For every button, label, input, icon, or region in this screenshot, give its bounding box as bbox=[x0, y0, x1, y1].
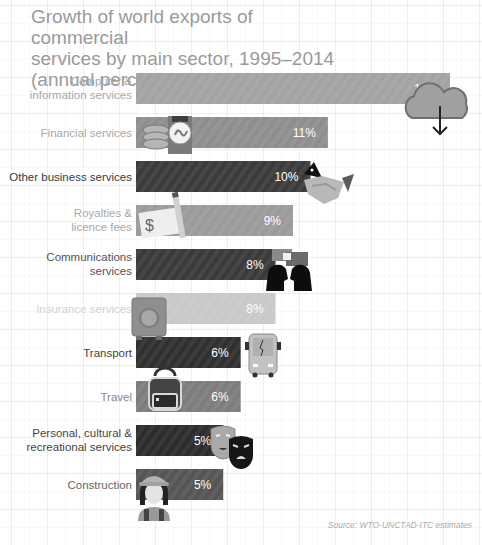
backpack-icon bbox=[149, 368, 181, 410]
bar-row: Computer &information services18% bbox=[30, 73, 450, 104]
construction-worker-icon bbox=[138, 476, 170, 521]
category-label: Personal, cultural & bbox=[32, 427, 132, 439]
category-label: licence fees bbox=[71, 221, 132, 233]
category-label: services bbox=[90, 265, 132, 277]
category-label: recreational services bbox=[27, 441, 133, 453]
theatre-masks-icon bbox=[211, 426, 253, 469]
value-label: 8% bbox=[246, 258, 264, 272]
bar-row: Communicationsservices8% bbox=[46, 249, 275, 280]
people-talking-icon bbox=[266, 249, 312, 291]
bar-chart: Computer &information services18%Financi… bbox=[0, 0, 482, 545]
bar-texture bbox=[136, 73, 450, 104]
safe-vault-icon bbox=[132, 298, 166, 340]
category-label: Royalties & bbox=[74, 207, 132, 219]
category-label: information services bbox=[30, 89, 133, 101]
bar-row: Transport6% bbox=[83, 337, 240, 368]
value-label: 5% bbox=[194, 434, 212, 448]
value-label: 6% bbox=[211, 390, 229, 404]
category-label: Other business services bbox=[9, 171, 132, 183]
category-label: Communications bbox=[46, 251, 132, 263]
source-note: Source: WTO-UNCTAD-ITC estimates bbox=[328, 520, 472, 530]
category-label: Travel bbox=[100, 391, 132, 403]
category-label: Transport bbox=[83, 347, 133, 359]
bus-icon bbox=[245, 334, 281, 378]
category-label: Financial services bbox=[41, 127, 133, 139]
value-label: 8% bbox=[246, 302, 264, 316]
svg-text:$: $ bbox=[145, 217, 154, 234]
bar-row: Other business services10% bbox=[9, 161, 310, 192]
cloud-download-icon bbox=[406, 83, 467, 134]
category-label: Computer & bbox=[71, 75, 133, 87]
value-label: 6% bbox=[211, 346, 229, 360]
category-label: Insurance services bbox=[36, 303, 132, 315]
value-label: 9% bbox=[264, 214, 282, 228]
value-label: 10% bbox=[274, 170, 298, 184]
bar-row: Personal, cultural &recreational service… bbox=[27, 425, 224, 456]
value-label: 5% bbox=[194, 478, 212, 492]
handshake-icon bbox=[304, 162, 354, 204]
value-label: 11% bbox=[293, 126, 316, 140]
category-label: Construction bbox=[67, 479, 132, 491]
cheque-pen-icon: $ bbox=[139, 192, 186, 239]
